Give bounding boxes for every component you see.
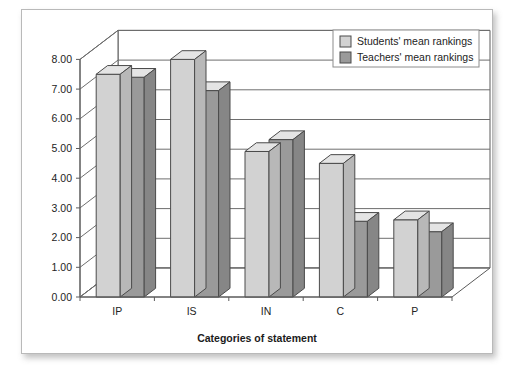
bar-side-face bbox=[144, 69, 155, 297]
y-axis-tick-label: 2.00 bbox=[52, 231, 73, 243]
legend-swatch-students bbox=[340, 36, 351, 47]
chart-legend: Students' mean rankingsTeachers' mean ra… bbox=[333, 30, 479, 67]
chart-figure: 0.001.002.003.004.005.006.007.008.00 IPI… bbox=[0, 0, 513, 383]
bar-side-face bbox=[269, 143, 280, 297]
x-axis-tick-label-IN: IN bbox=[261, 305, 272, 317]
y-axis-tick-label: 1.00 bbox=[52, 261, 73, 273]
bar-front-face bbox=[319, 163, 343, 297]
y-axis-tick-label: 7.00 bbox=[52, 83, 73, 95]
legend-label-teachers: Teachers' mean rankings bbox=[357, 51, 473, 63]
bar-side-face bbox=[293, 131, 304, 297]
bar-front-face bbox=[394, 220, 418, 297]
x-axis-tick-label-IS: IS bbox=[187, 305, 197, 317]
x-axis-tick-label-C: C bbox=[337, 305, 345, 317]
bar-side-face bbox=[418, 211, 429, 297]
bar-side-face bbox=[195, 51, 206, 297]
bar-front-face bbox=[245, 151, 269, 297]
chart-frame: 0.001.002.003.004.005.006.007.008.00 IPI… bbox=[21, 9, 493, 354]
bar-students-3 bbox=[319, 155, 354, 297]
y-axis-tick-label: 4.00 bbox=[52, 172, 73, 184]
x-axis-tick-labels: IPISINCP bbox=[112, 305, 418, 317]
x-axis bbox=[80, 297, 452, 301]
bar-side-face bbox=[219, 82, 230, 297]
bar-students-2 bbox=[245, 143, 280, 297]
bar-chart-svg: 0.001.002.003.004.005.006.007.008.00 IPI… bbox=[22, 10, 492, 353]
y-axis-tick-label: 8.00 bbox=[52, 53, 73, 65]
y-axis-tick-label: 6.00 bbox=[52, 112, 73, 124]
y-axis bbox=[76, 59, 80, 297]
bar-side-face bbox=[442, 223, 453, 297]
x-axis-title: Categories of statement bbox=[197, 332, 317, 344]
y-axis-tick-label: 5.00 bbox=[52, 142, 73, 154]
bar-side-face bbox=[343, 155, 354, 297]
legend-label-students: Students' mean rankings bbox=[357, 35, 472, 47]
x-axis-tick-label-IP: IP bbox=[112, 305, 122, 317]
bar-side-face bbox=[120, 66, 131, 297]
bar-students-4 bbox=[394, 211, 429, 297]
bar-students-1 bbox=[171, 51, 206, 297]
y-axis-tick-labels: 0.001.002.003.004.005.006.007.008.00 bbox=[52, 53, 73, 303]
x-axis-tick-label-P: P bbox=[411, 305, 418, 317]
y-axis-tick-label: 0.00 bbox=[52, 291, 73, 303]
bar-front-face bbox=[96, 74, 120, 297]
bar-students-0 bbox=[96, 66, 131, 297]
bar-front-face bbox=[171, 59, 195, 297]
bar-side-face bbox=[367, 213, 378, 297]
y-axis-tick-label: 3.00 bbox=[52, 202, 73, 214]
legend-swatch-teachers bbox=[340, 52, 351, 63]
